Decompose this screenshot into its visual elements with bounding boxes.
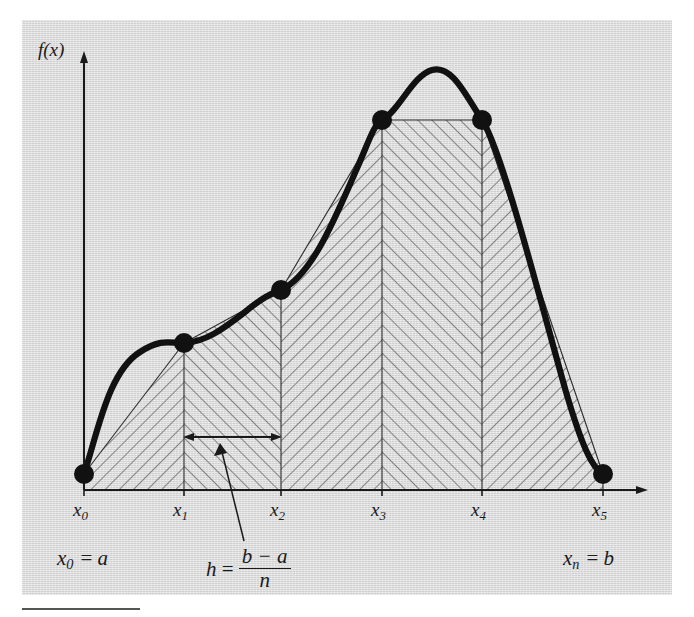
- fraction-denominator: n: [239, 569, 291, 591]
- tick-label-x3: x3: [371, 500, 386, 523]
- node-dot-x3: [372, 110, 392, 130]
- right-endpoint-annotation: xn = b: [563, 548, 614, 572]
- trapezoid-shaded-regions: [84, 120, 603, 490]
- y-axis-label: f(x): [38, 40, 64, 59]
- tick-label-x5: x5: [592, 500, 607, 523]
- fraction-numerator: b − a: [239, 546, 291, 569]
- left-endpoint-annotation: x0 = a: [57, 548, 108, 572]
- trapezoid-panel-4: [382, 120, 482, 490]
- bottom-rule-divider: [22, 608, 140, 610]
- trapezoid-rule-plot: [0, 0, 694, 617]
- x-axis-arrowhead: [636, 486, 648, 494]
- figure-root: f(x) x0 x1 x2 x3 x4 x5 x0 = a xn = b h =…: [0, 0, 694, 617]
- node-dot-x2: [271, 280, 291, 300]
- trapezoid-panel-3: [281, 120, 382, 490]
- tick-label-x4: x4: [471, 500, 486, 523]
- node-dot-x5: [593, 464, 613, 484]
- tick-label-x1: x1: [173, 500, 188, 523]
- node-dot-x4: [472, 110, 492, 130]
- step-size-formula: h = b − a n: [206, 546, 291, 591]
- y-axis-arrowhead: [80, 51, 88, 63]
- node-dot-x1: [174, 333, 194, 353]
- node-dot-x0: [74, 464, 94, 484]
- tick-label-x2: x2: [270, 500, 285, 523]
- fraction: b − a n: [239, 546, 291, 591]
- tick-label-x0: x0: [73, 500, 88, 523]
